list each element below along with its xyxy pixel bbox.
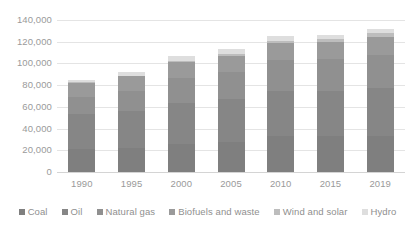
legend-item[interactable]: Oil (62, 207, 83, 217)
y-tick-label: 20,000 (22, 146, 52, 156)
legend-label: Natural gas (106, 207, 156, 217)
bar-segment[interactable] (118, 148, 145, 172)
x-axis: 1990199520002005201020152019 (57, 176, 405, 192)
bar-stack[interactable] (118, 72, 145, 172)
legend-label: Coal (28, 207, 48, 217)
bar-slot (156, 20, 206, 172)
legend-swatch-icon (97, 209, 103, 215)
legend-item[interactable]: Wind and solar (274, 207, 348, 217)
y-tick-label: 100,000 (17, 59, 52, 69)
bar-segment[interactable] (68, 114, 95, 149)
bar-segment[interactable] (168, 78, 195, 103)
x-tick-label: 2015 (306, 176, 356, 192)
bar-segment[interactable] (218, 56, 245, 72)
x-tick-label: 1995 (107, 176, 157, 192)
bar-segment[interactable] (168, 103, 195, 144)
bars-layer (57, 20, 405, 172)
y-tick-label: 80,000 (22, 80, 52, 90)
legend-swatch-icon (19, 209, 25, 215)
bar-segment[interactable] (267, 136, 294, 172)
bar-stack[interactable] (168, 56, 195, 172)
legend-label: Oil (71, 207, 83, 217)
bar-segment[interactable] (367, 55, 394, 89)
bar-slot (306, 20, 356, 172)
bar-slot (256, 20, 306, 172)
x-tick-label: 2010 (256, 176, 306, 192)
legend-item[interactable]: Natural gas (97, 207, 156, 217)
y-tick-label: 140,000 (17, 15, 52, 25)
bar-segment[interactable] (68, 83, 95, 97)
bar-segment[interactable] (168, 144, 195, 172)
y-tick-label: 120,000 (17, 37, 52, 47)
bar-segment[interactable] (68, 97, 95, 115)
legend-swatch-icon (274, 209, 280, 215)
bar-segment[interactable] (218, 99, 245, 142)
legend-label: Biofuels and waste (178, 207, 260, 217)
legend-item[interactable]: Biofuels and waste (169, 207, 260, 217)
y-tick-label: 40,000 (22, 124, 52, 134)
legend-swatch-icon (362, 209, 368, 215)
bar-segment[interactable] (367, 88, 394, 135)
bar-segment[interactable] (367, 136, 394, 172)
x-tick-label: 2019 (355, 176, 405, 192)
chart-legend: CoalOilNatural gasBiofuels and wasteWind… (0, 204, 415, 220)
stacked-bar-chart: 140,000120,000100,00080,00060,00040,0002… (0, 0, 415, 230)
legend-item[interactable]: Coal (19, 207, 48, 217)
bar-segment[interactable] (267, 43, 294, 60)
bar-segment[interactable] (267, 91, 294, 136)
bar-segment[interactable] (267, 60, 294, 90)
bar-stack[interactable] (267, 36, 294, 172)
bar-slot (57, 20, 107, 172)
bar-segment[interactable] (118, 91, 145, 112)
legend-item[interactable]: Hydro (362, 207, 397, 217)
bar-stack[interactable] (68, 80, 95, 172)
legend-label: Wind and solar (283, 207, 348, 217)
bar-stack[interactable] (367, 29, 394, 172)
bar-segment[interactable] (68, 149, 95, 172)
bar-segment[interactable] (168, 62, 195, 78)
x-tick-label: 1990 (57, 176, 107, 192)
x-tick-label: 2000 (156, 176, 206, 192)
bar-slot (206, 20, 256, 172)
bar-segment[interactable] (317, 136, 344, 172)
bar-segment[interactable] (317, 42, 344, 59)
y-axis: 140,000120,000100,00080,00060,00040,0002… (0, 20, 52, 172)
bar-stack[interactable] (317, 35, 344, 172)
y-tick-label: 0 (47, 167, 52, 177)
bar-slot (355, 20, 405, 172)
legend-swatch-icon (62, 209, 68, 215)
x-tick-label: 2005 (206, 176, 256, 192)
bar-segment[interactable] (317, 59, 344, 90)
legend-swatch-icon (169, 209, 175, 215)
bar-segment[interactable] (118, 76, 145, 90)
bar-segment[interactable] (317, 91, 344, 137)
bar-segment[interactable] (218, 72, 245, 99)
bar-segment[interactable] (367, 37, 394, 54)
bar-slot (107, 20, 157, 172)
legend-label: Hydro (371, 207, 397, 217)
bar-segment[interactable] (218, 142, 245, 172)
axis-baseline (57, 172, 405, 173)
bar-stack[interactable] (218, 49, 245, 172)
y-tick-label: 60,000 (22, 102, 52, 112)
bar-segment[interactable] (118, 111, 145, 147)
